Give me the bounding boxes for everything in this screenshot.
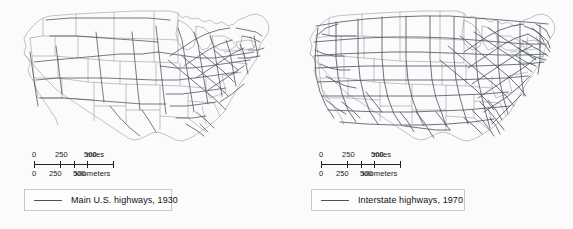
scale-km-500-unit: 500 kilometers <box>360 169 362 179</box>
scale-miles-labels: 0 250 500 miles <box>32 150 138 160</box>
scale-bar-1970: 0 250 500 miles 0 250 500 kilometers <box>319 150 425 179</box>
scale-km-0: 0 <box>319 169 323 179</box>
scale-miles-0: 0 <box>32 150 36 160</box>
scale-km-labels: 0 250 500 kilometers <box>32 169 138 179</box>
state-borders-1930 <box>24 11 269 141</box>
map-comparison-figure: 0 250 500 miles 0 250 500 kilometers Mai… <box>0 0 573 229</box>
map-panel-1970: 0 250 500 miles 0 250 500 kilometers Int… <box>286 0 572 229</box>
legend-label-1930: Main U.S. highways, 1930 <box>71 195 178 205</box>
map-panel-1930: 0 250 500 miles 0 250 500 kilometers Mai… <box>0 0 286 229</box>
scale-miles-0: 0 <box>319 150 323 160</box>
scale-ruler-1970 <box>321 161 401 168</box>
legend-1970: Interstate highways, 1970 <box>311 189 465 211</box>
legend-1930: Main U.S. highways, 1930 <box>24 189 172 211</box>
scale-ruler-1930 <box>34 161 114 168</box>
scale-miles-500-unit: 500 miles <box>371 150 373 160</box>
highway-network-1970 <box>314 16 550 138</box>
scale-km-labels: 0 250 500 kilometers <box>319 169 425 179</box>
state-borders-1970 <box>310 11 555 141</box>
scale-miles-500-unit: 500 miles <box>84 150 86 160</box>
highway-network-1930 <box>30 18 264 136</box>
legend-label-1970: Interstate highways, 1970 <box>358 195 463 205</box>
scale-miles-labels: 0 250 500 miles <box>319 150 425 160</box>
scale-km-250: 250 <box>336 169 349 179</box>
scale-miles-250: 250 <box>342 150 355 160</box>
legend-line-swatch-icon <box>321 200 349 201</box>
legend-line-swatch-icon <box>34 200 62 201</box>
map-canvas-1930 <box>10 6 278 151</box>
scale-bar-1930: 0 250 500 miles 0 250 500 kilometers <box>32 150 138 179</box>
scale-km-250: 250 <box>49 169 62 179</box>
scale-miles-250: 250 <box>55 150 68 160</box>
scale-km-500-unit: 500 kilometers <box>73 169 75 179</box>
map-canvas-1970 <box>296 6 564 151</box>
great-lakes-1930 <box>176 20 256 50</box>
scale-km-0: 0 <box>32 169 36 179</box>
